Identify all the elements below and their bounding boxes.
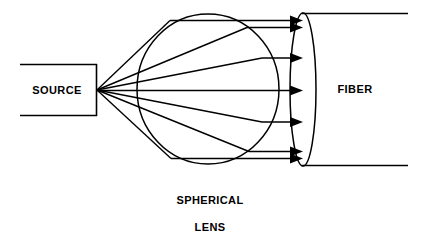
ray-5-arrowhead bbox=[290, 117, 303, 127]
ray-5-incident-segment bbox=[97, 90, 262, 122]
ray-7 bbox=[97, 90, 303, 163]
source-label: SOURCE bbox=[32, 84, 81, 96]
ray-3-arrowhead bbox=[290, 53, 303, 63]
optics-svg-canvas: SOURCE FIBER bbox=[0, 0, 424, 247]
ray-1 bbox=[97, 16, 303, 90]
lens-caption-line-1: SPHERICAL bbox=[176, 194, 243, 206]
ray-2-incident-segment bbox=[97, 28, 247, 91]
lens-caption-line-2: LENS bbox=[195, 221, 226, 233]
ray-5 bbox=[97, 90, 303, 127]
ray-7-incident-segment bbox=[97, 90, 171, 159]
fiber-label: FIBER bbox=[338, 83, 373, 95]
optics-diagram: SOURCE FIBER bbox=[0, 0, 424, 247]
spherical-lens-ellipse bbox=[137, 14, 279, 164]
ray-6-incident-segment bbox=[97, 90, 249, 152]
ray-4 bbox=[97, 86, 303, 96]
ray-4-arrowhead bbox=[290, 86, 303, 96]
ray-1-incident-segment bbox=[97, 21, 170, 91]
ray-3 bbox=[97, 53, 303, 90]
ray-3-incident-segment bbox=[97, 58, 262, 90]
